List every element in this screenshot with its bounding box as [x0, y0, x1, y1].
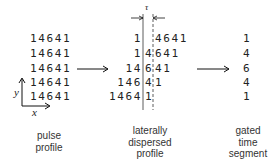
dispersed-mid: 1: [145, 91, 153, 103]
dispersed-profile-label: laterally dispersed profile: [115, 125, 185, 160]
pulse-profile-label: pulse profile: [24, 130, 74, 153]
diagram-canvas: τ 14641 14641 14641 14641 14641 y x 1 46…: [0, 0, 280, 167]
label-line: gated: [218, 125, 278, 137]
gated-value: 4: [243, 77, 250, 89]
right-arrow-icon: [197, 66, 229, 72]
x-axis-label: x: [32, 106, 37, 118]
gated-value: 1: [243, 33, 250, 45]
gated-value: 4: [243, 48, 250, 60]
pulse-row: 14641: [30, 77, 71, 89]
pulse-row: 14641: [30, 33, 71, 45]
gated-segment-label: gated time segment: [218, 125, 278, 160]
gate-width-arrows-icon: [131, 16, 165, 20]
label-line: segment: [218, 148, 278, 160]
right-arrow-icon: [77, 66, 108, 72]
label-line: time: [218, 137, 278, 149]
gated-value: 1: [243, 91, 250, 103]
dispersed-left: 14: [126, 63, 142, 75]
dispersed-left: 146: [117, 77, 142, 89]
dispersed-right: 4641: [155, 33, 188, 45]
tau-symbol: τ: [145, 2, 148, 12]
label-line: profile: [24, 142, 74, 154]
y-axis-label: y: [14, 86, 19, 98]
dispersed-right: 1: [155, 77, 163, 89]
label-line: pulse: [24, 130, 74, 142]
pulse-row: 14641: [30, 48, 71, 60]
label-line: laterally: [115, 125, 185, 137]
pulse-row: 14641: [30, 91, 71, 103]
dispersed-mid: 4: [145, 77, 153, 89]
dispersed-left: 1: [134, 48, 142, 60]
dispersed-left: 1: [134, 33, 142, 45]
dispersed-mid: 4: [145, 48, 153, 60]
dispersed-right: 641: [155, 48, 180, 60]
dispersed-mid: 6: [145, 63, 153, 75]
label-line: dispersed: [115, 137, 185, 149]
dispersed-left: 1464: [109, 91, 142, 103]
dispersed-right: 41: [155, 63, 171, 75]
pulse-row: 14641: [30, 63, 71, 75]
gated-value: 6: [243, 63, 250, 75]
label-line: profile: [115, 148, 185, 160]
